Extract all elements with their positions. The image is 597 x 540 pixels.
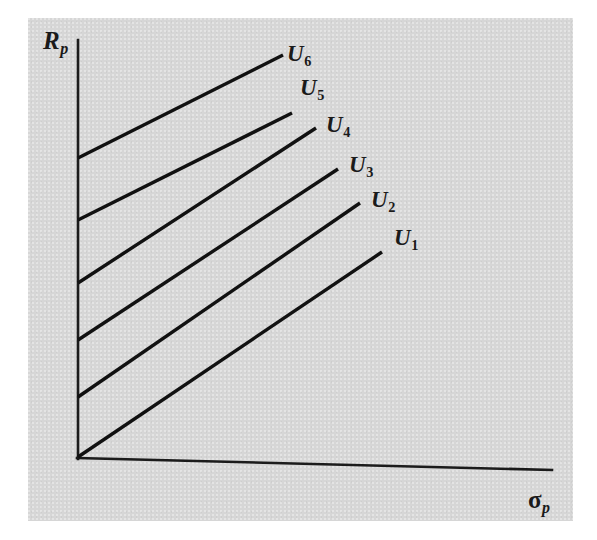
figure-root: Rp σp U6 U5 U4 U3 U2 U1 (0, 0, 597, 540)
chart-canvas (0, 0, 597, 540)
curve-label-u6-base: U (287, 41, 304, 66)
x-axis (77, 458, 552, 470)
curve-label-u6-subscript: 6 (304, 53, 312, 69)
y-axis-label: Rp (43, 28, 68, 57)
curve-label-u3: U3 (349, 153, 373, 179)
curve-label-u4-base: U (326, 112, 343, 137)
curve-label-u6: U6 (287, 42, 311, 68)
curve-label-u4: U4 (326, 113, 350, 139)
curve-label-u4-subscript: 4 (343, 124, 351, 140)
curve-label-u1: U1 (394, 226, 418, 252)
x-axis-label-subscript: p (542, 499, 551, 516)
y-axis-label-subscript: p (60, 40, 69, 57)
curve-label-u2-base: U (371, 187, 388, 212)
curve-label-u1-base: U (394, 225, 411, 250)
curve-u3 (78, 169, 338, 340)
curve-label-u5-base: U (300, 75, 317, 100)
y-axis-label-base: R (43, 27, 60, 54)
curve-label-u2-subscript: 2 (388, 199, 396, 215)
x-axis-label-base: σ (528, 486, 542, 513)
curve-label-u2: U2 (371, 188, 395, 214)
curve-label-u3-subscript: 3 (366, 164, 374, 180)
curve-u1 (78, 252, 382, 457)
curve-label-u3-base: U (349, 152, 366, 177)
curve-label-u5-subscript: 5 (317, 87, 325, 103)
curve-u6 (78, 55, 283, 158)
x-axis-label: σp (528, 487, 550, 516)
curve-u2 (78, 203, 360, 397)
curve-label-u1-subscript: 1 (411, 237, 419, 253)
curve-label-u5: U5 (300, 76, 324, 102)
